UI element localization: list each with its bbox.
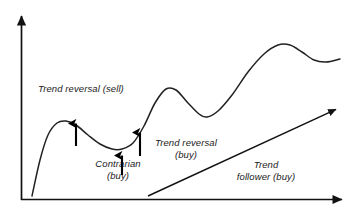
trading-signals-diagram — [0, 0, 362, 217]
label-trend-reversal-buy-line1: Trend reversal — [146, 137, 226, 149]
label-trend-reversal-buy: Trend reversal (buy) — [146, 137, 226, 161]
label-trend-reversal-buy-line2: (buy) — [146, 149, 226, 161]
diagram-canvas: Trend reversal (sell) Contrarian (buy) T… — [0, 0, 362, 217]
label-trend-follower-buy: Trend follower (buy) — [224, 159, 308, 183]
label-contrarian-line2: (buy) — [85, 170, 151, 182]
label-contrarian-line1: Contrarian — [85, 158, 151, 170]
label-trend-follower-line1: Trend — [224, 159, 308, 171]
label-trend-follower-line2: follower (buy) — [224, 171, 308, 183]
label-trend-reversal-sell: Trend reversal (sell) — [38, 83, 124, 95]
label-contrarian-buy: Contrarian (buy) — [85, 158, 151, 182]
